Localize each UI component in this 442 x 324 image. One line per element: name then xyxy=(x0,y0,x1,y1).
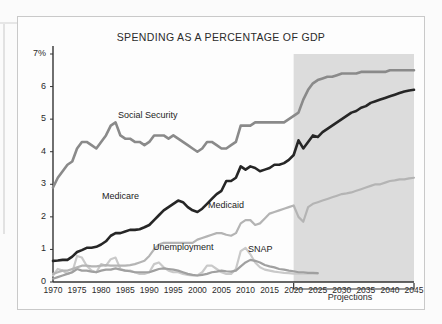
series-label-social-security: Social Security xyxy=(118,110,178,120)
y-tick-label: 4 xyxy=(20,146,46,156)
scan-artifact-left-edge xyxy=(3,24,5,234)
plot-area: 7%6543210 197019751980198519901995200020… xyxy=(18,17,426,311)
projection-band-group xyxy=(294,54,414,282)
series-line-snap xyxy=(53,260,318,279)
projection-band xyxy=(294,54,414,282)
series-label-medicare: Medicare xyxy=(102,191,139,201)
y-tick-label: 5 xyxy=(20,113,46,123)
y-tick-label: 3 xyxy=(20,178,46,188)
y-tick-label: 2 xyxy=(20,211,46,221)
series-label-snap: SNAP xyxy=(248,244,273,254)
projections-label: Projections xyxy=(328,292,373,302)
series-label-medicaid: Medicaid xyxy=(208,200,244,210)
y-tick-label: 7% xyxy=(20,48,46,58)
chart-figure: SPENDING AS A PERCENTAGE OF GDP 7%654321… xyxy=(17,16,425,310)
chart-canvas xyxy=(18,17,426,311)
y-tick-label: 6 xyxy=(20,81,46,91)
series-label-unemployment: Unemployment xyxy=(153,242,214,252)
x-tick-label: 2045 xyxy=(399,285,429,295)
y-tick-label: 1 xyxy=(20,243,46,253)
